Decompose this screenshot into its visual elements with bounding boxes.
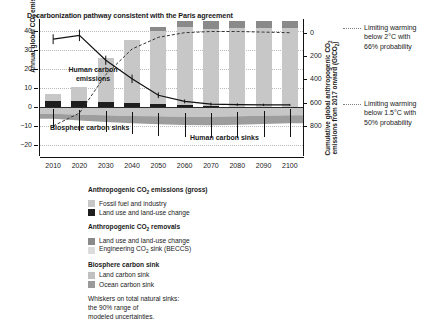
y-tick-label-left: −10 (8, 122, 32, 129)
x-tick-label: 2010 (40, 162, 66, 169)
y-tick-mark-left (34, 31, 38, 32)
legend-swatch-fossil-fuel (88, 200, 95, 207)
legend-item-land-carbon-sink: Land carbon sink (88, 270, 208, 279)
annotation-human-sinks: Human carbon sinks (190, 133, 276, 142)
x-tick-label: 2060 (172, 162, 198, 169)
y-axis-line-right (303, 19, 304, 156)
legend-swatch-beccs (88, 247, 95, 254)
leader-line-2c (343, 28, 361, 29)
legend: Anthropogenic CO2 emissions (gross) Foss… (88, 185, 208, 321)
legend-footnote: Whiskers on total natural sinks: the 90%… (88, 294, 208, 322)
y-tick-mark-right (303, 33, 307, 34)
legend-label-beccs: Engineering CO2 sink (BECCS) (99, 244, 191, 257)
page-title: Decarbonization pathway consistent with … (27, 11, 233, 20)
legend-group-title-emissions: Anthropogenic CO2 emissions (gross) (88, 185, 208, 198)
legend-group-title-biosphere: Biosphere carbon sink (88, 260, 208, 269)
y-tick-mark-right (303, 126, 307, 127)
legend-swatch-land-use-removals (88, 238, 95, 245)
y-tick-label-left: 0 (8, 103, 32, 110)
y-tick-label-left: 20 (8, 65, 32, 72)
legend-label-land-carbon-sink: Land carbon sink (99, 270, 149, 279)
leader-line-15c (343, 104, 361, 105)
y-tick-mark-left (34, 107, 38, 108)
x-tick-label: 2070 (198, 162, 224, 169)
legend-label-fossil-fuel: Fossil fuel and industry (99, 199, 166, 208)
y-tick-mark-left (34, 145, 38, 146)
legend-item-ocean-carbon-sink: Ocean carbon sink (88, 280, 208, 289)
legend-swatch-land-use-emissions (88, 209, 95, 216)
annotation-biosphere-sinks: Biosphere carbon sinks (50, 123, 146, 132)
y-tick-mark-right (303, 79, 307, 80)
y-tick-mark-right (303, 56, 307, 57)
legend-group-title-removals: Anthropogenic CO2 removals (88, 222, 208, 235)
y-tick-label-left: −20 (8, 141, 32, 148)
x-tick-label: 2040 (119, 162, 145, 169)
y-axis-title-right-line2: emissions from 2017 onward (GtCO2) (331, 23, 343, 173)
x-tick-label: 2020 (66, 162, 92, 169)
y-tick-mark-left (34, 88, 38, 89)
y-axis-line-left (39, 19, 40, 156)
x-tick-label: 2100 (277, 162, 303, 169)
legend-item-land-use-emissions: Land use and land-use change (88, 208, 208, 217)
legend-swatch-land-carbon-sink (88, 272, 95, 279)
plot-area: Human carbon emissions Biosphere carbon … (40, 21, 303, 155)
legend-item-beccs: Engineering CO2 sink (BECCS) (88, 246, 208, 255)
legend-label-land-use-emissions: Land use and land-use change (99, 208, 190, 217)
y-tick-mark-right (303, 103, 307, 104)
annotation-warming-15c: Limiting warming below 1.5°C with 50% pr… (364, 99, 417, 127)
y-tick-label-left: 10 (8, 84, 32, 91)
y-tick-mark-left (34, 69, 38, 70)
legend-swatch-ocean-carbon-sink (88, 281, 95, 288)
annotation-human-emissions: Human carbon emissions (54, 65, 132, 83)
annotation-warming-2c: Limiting warming below 2°C with 66% prob… (364, 23, 417, 51)
x-axis-line (40, 157, 304, 158)
y-tick-label-left: 30 (8, 46, 32, 53)
x-tick-label: 2090 (251, 162, 277, 169)
legend-item-fossil-fuel: Fossil fuel and industry (88, 199, 208, 208)
y-tick-mark-left (34, 50, 38, 51)
y-axis-title-left-text: Annual global CO2 emissions (GtCO2/yr) (29, 0, 36, 73)
legend-label-ocean-carbon-sink: Ocean carbon sink (99, 280, 154, 289)
y-tick-label-left: 40 (8, 27, 32, 34)
y-tick-mark-left (34, 126, 38, 127)
x-tick-label: 2050 (145, 162, 171, 169)
x-tick-label: 2030 (93, 162, 119, 169)
plot-clip: Human carbon emissions Biosphere carbon … (40, 21, 303, 155)
x-tick-label: 2080 (224, 162, 250, 169)
